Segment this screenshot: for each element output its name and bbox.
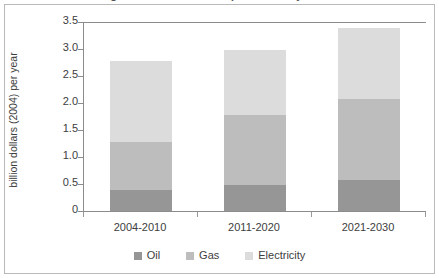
bar-segment-electricity	[224, 50, 286, 115]
bar-segment-oil	[110, 190, 172, 212]
bar-segment-gas	[110, 142, 172, 191]
x-tick-mark	[425, 212, 426, 217]
chart-legend: OilGasElectricity	[0, 250, 439, 261]
legend-item-oil: Oil	[134, 250, 160, 261]
figure-container: Figure 3.1 Investment requirements by se…	[0, 0, 439, 278]
legend-swatch-gas	[186, 252, 194, 260]
y-tick: 1.5	[32, 130, 78, 131]
y-tick: 3.5	[32, 22, 78, 23]
y-axis-title-text: billion dollars (2004) per year	[7, 52, 19, 187]
legend-item-electricity: Electricity	[245, 250, 305, 261]
y-tick: 0.5	[32, 184, 78, 185]
y-tick-label: 3.5	[38, 15, 78, 26]
y-tick-label: 2.5	[38, 69, 78, 80]
y-tick: 0	[32, 211, 78, 212]
bar-stack	[110, 61, 172, 212]
y-tick-label: 1.0	[38, 150, 78, 161]
y-tick-label: 1.5	[38, 123, 78, 134]
x-axis-line	[83, 211, 426, 212]
legend-label: Gas	[199, 250, 219, 261]
bar-segment-gas	[224, 115, 286, 185]
clipped-title-strip: Figure 3.1 Investment requirements by se…	[0, 0, 439, 5]
x-tick-mark	[83, 212, 84, 217]
y-tick-label: 0	[38, 204, 78, 215]
x-tick-mark	[311, 212, 312, 217]
x-category-label: 2011-2020	[194, 221, 314, 233]
bar-segment-oil	[338, 180, 400, 212]
legend-item-gas: Gas	[186, 250, 219, 261]
bar-stack	[338, 28, 400, 212]
x-category-label: 2004-2010	[80, 221, 200, 233]
y-tick: 3.0	[32, 49, 78, 50]
y-tick: 2.0	[32, 103, 78, 104]
plot-area	[83, 22, 426, 212]
x-category-label: 2021-2030	[308, 221, 428, 233]
y-tick-label: 3.0	[38, 42, 78, 53]
bar-segment-electricity	[338, 28, 400, 98]
legend-label: Oil	[147, 250, 160, 261]
bar-segment-electricity	[110, 61, 172, 142]
x-tick-mark	[197, 212, 198, 217]
legend-label: Electricity	[258, 250, 305, 261]
figure-title: Figure 3.1 Investment requirements by se…	[0, 0, 439, 1]
y-tick-label: 2.0	[38, 96, 78, 107]
legend-swatch-oil	[134, 252, 142, 260]
y-tick-label: 0.5	[38, 177, 78, 188]
y-tick: 1.0	[32, 157, 78, 158]
bar-stack	[224, 50, 286, 212]
y-axis-title: billion dollars (2004) per year	[6, 20, 20, 220]
y-tick: 2.5	[32, 76, 78, 77]
bar-segment-gas	[338, 99, 400, 180]
legend-swatch-electricity	[245, 252, 253, 260]
bar-segment-oil	[224, 185, 286, 212]
